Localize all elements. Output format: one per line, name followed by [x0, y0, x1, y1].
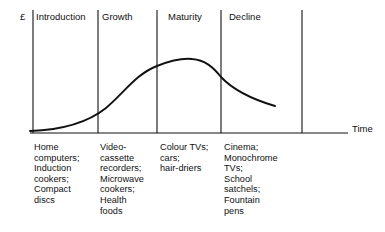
- example-list-growth: Video- cassette recorders; Microwave coo…: [100, 142, 158, 216]
- y-axis-label: £: [20, 11, 25, 22]
- example-list-introduction: Home computers; Induction cookers; Compa…: [34, 142, 96, 206]
- example-list-decline: Cinema; Monochrome TVs; School satchels;…: [224, 142, 304, 216]
- stage-label-growth: Growth: [102, 11, 133, 22]
- stage-label-maturity: Maturity: [168, 11, 202, 22]
- stage-label-introduction: Introduction: [36, 11, 86, 22]
- stage-examples: Home computers; Induction cookers; Compa…: [0, 142, 385, 232]
- stage-label-decline: Decline: [229, 11, 261, 22]
- x-axis-label: Time: [352, 123, 373, 134]
- life-cycle-curve: [30, 59, 275, 131]
- example-list-maturity: Colour TVs; cars; hair-driers: [160, 142, 220, 174]
- product-life-cycle-figure: £ Introduction Growth Maturity Decline T…: [0, 0, 385, 232]
